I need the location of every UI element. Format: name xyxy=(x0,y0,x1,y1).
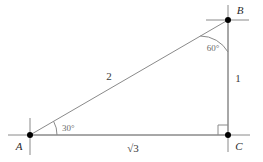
vertex-point-c xyxy=(225,132,231,138)
angle-label-a: 30° xyxy=(62,123,75,133)
side-label-hypotenuse: 2 xyxy=(106,70,112,82)
side-hypotenuse-ab xyxy=(30,20,228,135)
angle-markers xyxy=(54,36,228,135)
vertex-label-a: A xyxy=(15,140,23,152)
vertex-label-c: C xyxy=(235,140,243,152)
vertex-label-b: B xyxy=(237,4,244,16)
triangle-sides xyxy=(30,20,228,135)
angle-arc-a-30 xyxy=(54,121,57,135)
vertex-point-b xyxy=(225,17,231,23)
side-label-vertical: 1 xyxy=(235,72,241,84)
reference-lines xyxy=(8,5,250,155)
triangle-figure: A B C 2 1 √3 30° 60° xyxy=(0,0,263,162)
angle-label-b: 60° xyxy=(207,43,220,53)
geometry-diagram: A B C 2 1 √3 30° 60° xyxy=(0,0,263,162)
side-label-base: √3 xyxy=(127,142,139,154)
vertex-point-a xyxy=(27,132,33,138)
